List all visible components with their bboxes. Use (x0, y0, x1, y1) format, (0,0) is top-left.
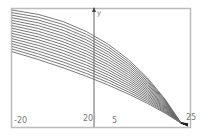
plot-area (0, 0, 202, 139)
curve-line (12, 26, 181, 123)
curve-line (12, 49, 181, 123)
x-tick-left: -20 (14, 117, 27, 125)
y-axis-label: y (97, 9, 101, 17)
y-axis-tick-value: 20 (83, 115, 93, 123)
x-tick-mid: 5 (112, 117, 117, 125)
curve-line (12, 36, 181, 123)
curve-line (12, 33, 181, 123)
curve-line (12, 46, 181, 123)
curve-family (12, 10, 188, 126)
x-tick-right: 25 (186, 114, 196, 122)
